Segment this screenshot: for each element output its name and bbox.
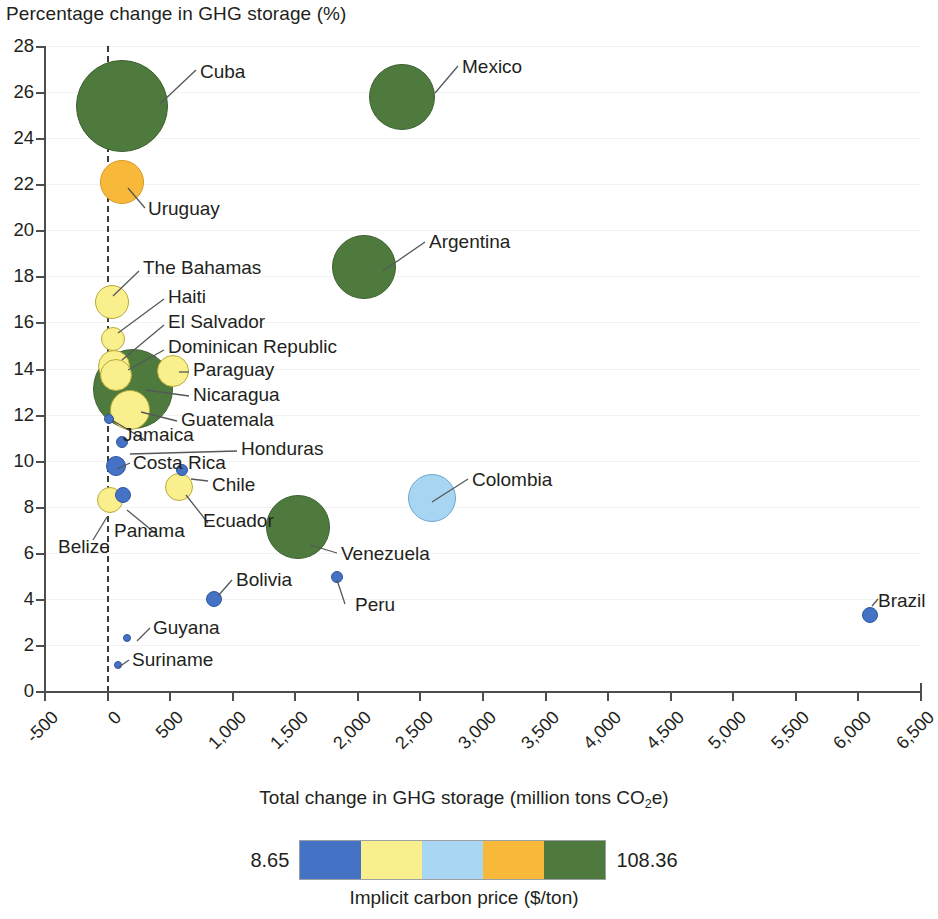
point-label-suriname: Suriname: [132, 650, 213, 669]
x-axis-title-before: Total change in GHG storage (million ton…: [259, 787, 644, 808]
point-label-dominican-republic: Dominican Republic: [168, 337, 337, 356]
x-axis-title-subscript: 2: [645, 797, 652, 811]
legend-min-value: 8.65: [250, 849, 289, 872]
point-label-chile: Chile: [212, 475, 255, 494]
point-label-cuba: Cuba: [200, 62, 245, 81]
legend-swatch-2: [361, 841, 422, 879]
point-label-paraguay: Paraguay: [193, 360, 274, 379]
point-label-venezuela: Venezuela: [341, 544, 430, 563]
point-label-panama: Panama: [114, 521, 185, 540]
point-label-haiti: Haiti: [168, 287, 206, 306]
point-label-argentina: Argentina: [429, 232, 510, 251]
point-label-brazil: Brazil: [878, 591, 926, 610]
point-label-guatemala: Guatemala: [181, 410, 274, 429]
legend-swatch-3: [422, 841, 483, 879]
point-label-honduras: Honduras: [241, 439, 323, 458]
point-label-costa-rica: Costa Rica: [133, 453, 226, 472]
point-label-guyana: Guyana: [153, 618, 220, 637]
point-label-bolivia: Bolivia: [236, 570, 292, 589]
legend-swatch-5: [544, 841, 605, 879]
x-axis-title: Total change in GHG storage (million ton…: [0, 787, 928, 809]
point-label-the-bahamas: The Bahamas: [143, 258, 261, 277]
legend-max-value: 108.36: [616, 849, 677, 872]
point-label-peru: Peru: [355, 595, 395, 614]
point-label-mexico: Mexico: [462, 57, 522, 76]
legend-swatch-1: [300, 841, 361, 879]
legend-caption: Implicit carbon price ($/ton): [0, 887, 928, 909]
point-label-uruguay: Uruguay: [148, 199, 220, 218]
legend-swatches: [299, 840, 606, 880]
point-label-nicaragua: Nicaragua: [193, 385, 280, 404]
point-label-jamaica: Jamaica: [123, 425, 194, 444]
legend-swatch-4: [483, 841, 544, 879]
point-label-belize: Belize: [58, 537, 110, 556]
point-label-colombia: Colombia: [472, 470, 552, 489]
color-legend: 8.65 108.36 Implicit carbon price ($/ton…: [0, 840, 928, 909]
x-axis-title-after: e): [652, 787, 669, 808]
point-label-ecuador: Ecuador: [203, 511, 274, 530]
point-label-el-salvador: El Salvador: [168, 312, 265, 331]
